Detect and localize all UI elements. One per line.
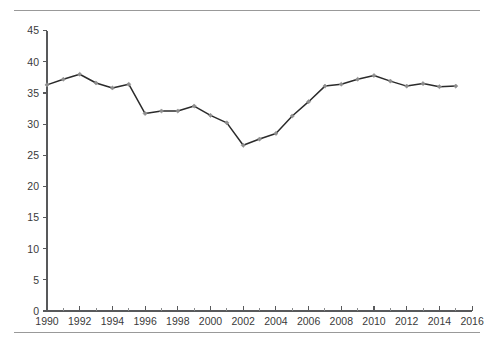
- data-point-marker: [61, 77, 65, 81]
- data-point-marker: [437, 85, 441, 89]
- x-axis-tick-label: 2010: [362, 315, 386, 327]
- data-point-marker: [257, 137, 261, 141]
- y-axis-tick-label: 5: [33, 274, 39, 286]
- data-point-marker: [454, 84, 458, 88]
- data-point-marker: [421, 82, 425, 86]
- y-axis-tick-label: 25: [27, 149, 39, 161]
- plot-canvas: 0510152025303540451990199219941996199820…: [0, 0, 493, 350]
- y-axis-tick-label: 10: [27, 243, 39, 255]
- x-axis-tick-label: 2000: [199, 315, 223, 327]
- data-point-marker: [110, 86, 114, 90]
- y-axis-tick-label: 40: [27, 56, 39, 68]
- x-axis-tick-label: 2002: [232, 315, 256, 327]
- x-axis-tick-label: 1996: [133, 315, 157, 327]
- chart-page: 0510152025303540451990199219941996199820…: [0, 0, 493, 350]
- y-axis-tick-label: 20: [27, 180, 39, 192]
- x-axis-tick-label: 1992: [68, 315, 92, 327]
- x-axis-tick-label: 1998: [166, 315, 190, 327]
- data-point-marker: [356, 77, 360, 81]
- data-point-marker: [405, 84, 409, 88]
- data-point-marker: [176, 109, 180, 113]
- x-axis-tick-label: 2012: [395, 315, 419, 327]
- x-axis-tick-label: 2016: [460, 315, 484, 327]
- data-point-marker: [159, 109, 163, 113]
- data-point-marker: [45, 83, 49, 87]
- line-chart: 0510152025303540451990199219941996199820…: [0, 0, 493, 350]
- x-axis-tick-label: 2006: [297, 315, 321, 327]
- y-axis-tick-label: 45: [27, 24, 39, 36]
- y-axis-tick-label: 35: [27, 87, 39, 99]
- data-point-marker: [388, 79, 392, 83]
- y-axis-tick-label: 30: [27, 118, 39, 130]
- y-axis-tick-label: 15: [27, 211, 39, 223]
- x-axis-tick-label: 2014: [428, 315, 452, 327]
- series-line: [47, 74, 456, 145]
- x-axis-tick-label: 1990: [35, 315, 59, 327]
- x-axis-tick-label: 1994: [101, 315, 125, 327]
- x-axis-tick-label: 2008: [330, 315, 354, 327]
- data-point-marker: [339, 82, 343, 86]
- data-point-marker: [372, 73, 376, 77]
- x-axis-tick-label: 2004: [264, 315, 288, 327]
